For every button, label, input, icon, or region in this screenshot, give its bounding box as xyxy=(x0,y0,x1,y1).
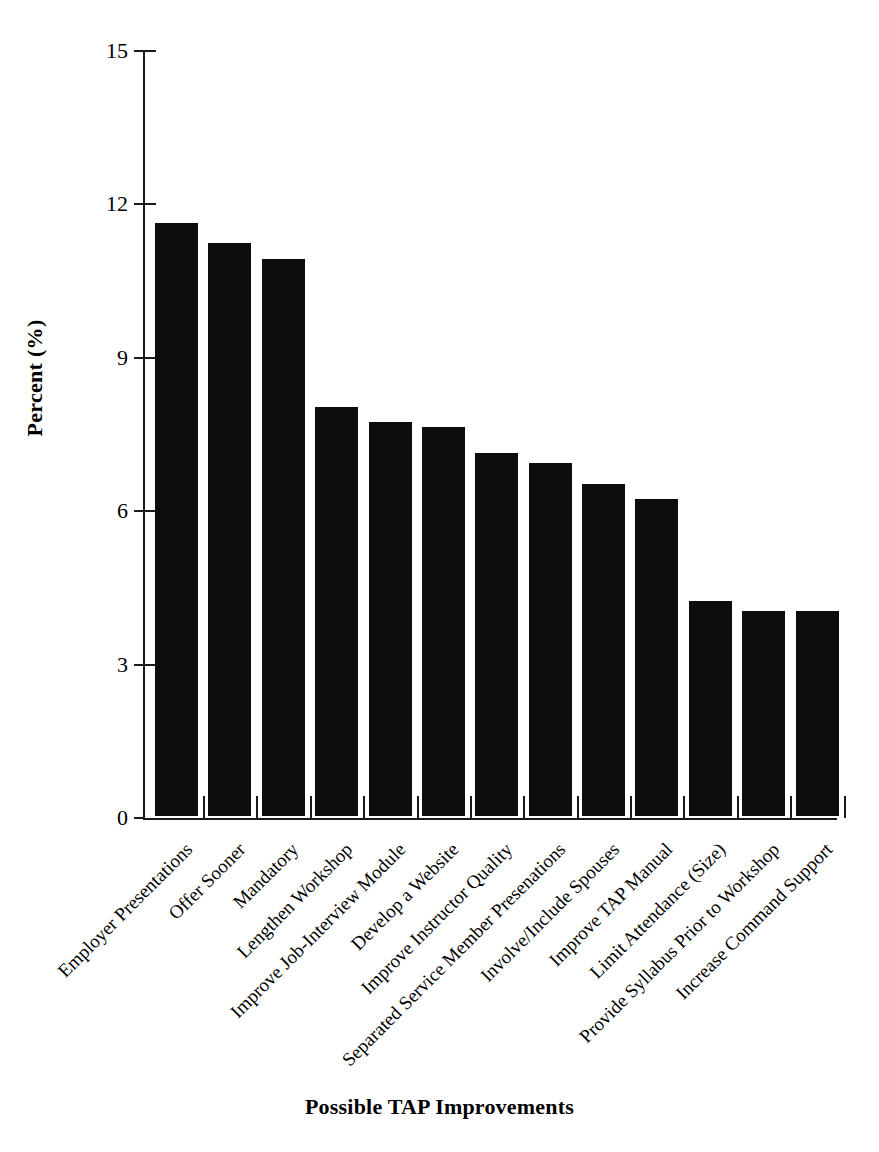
bar xyxy=(422,427,465,816)
x-category-label: Provide Syllabus Prior to Workshop xyxy=(576,839,783,1046)
x-tick-mark xyxy=(790,796,792,818)
y-tick-mark xyxy=(134,203,145,205)
x-tick-mark xyxy=(363,796,365,818)
y-tick-label: 0 xyxy=(117,807,128,829)
bar xyxy=(689,601,732,816)
bar xyxy=(155,223,198,816)
bar xyxy=(582,484,625,816)
x-tick-mark xyxy=(203,796,205,818)
y-tick-label: 12 xyxy=(106,193,128,215)
x-axis-line xyxy=(143,818,837,820)
y-tick-mark xyxy=(134,664,145,666)
bar xyxy=(315,407,358,816)
x-tick-mark xyxy=(417,796,419,818)
bar-chart-figure: Percent (%) 03691215 Employer Presentati… xyxy=(0,0,879,1152)
y-tick-label: 3 xyxy=(117,653,128,675)
bar xyxy=(796,611,839,816)
x-axis-title: Possible TAP Improvements xyxy=(0,1094,879,1120)
bar xyxy=(208,243,251,816)
bar xyxy=(635,499,678,816)
y-tick-label: 15 xyxy=(106,40,128,62)
plot-area: 03691215 xyxy=(143,51,837,818)
y-axis-title: Percent (%) xyxy=(22,288,48,468)
bar xyxy=(262,259,305,816)
y-tick-mark-inner xyxy=(145,203,156,205)
x-tick-mark xyxy=(310,796,312,818)
x-tick-mark xyxy=(630,796,632,818)
x-tick-mark xyxy=(256,796,258,818)
y-axis-line xyxy=(143,51,145,818)
y-tick-label: 9 xyxy=(117,346,128,368)
y-tick-label: 6 xyxy=(117,500,128,522)
x-tick-mark xyxy=(470,796,472,818)
x-tick-mark xyxy=(577,796,579,818)
bar xyxy=(742,611,785,816)
bar xyxy=(475,453,518,816)
x-tick-mark xyxy=(737,796,739,818)
bar xyxy=(529,463,572,816)
y-tick-mark-inner xyxy=(145,50,156,52)
x-tick-mark-origin xyxy=(143,796,145,818)
x-tick-mark xyxy=(844,796,846,818)
x-tick-mark xyxy=(683,796,685,818)
bar xyxy=(369,422,412,816)
y-tick-mark xyxy=(134,357,145,359)
y-tick-mark xyxy=(134,50,145,52)
x-tick-mark xyxy=(523,796,525,818)
y-tick-mark xyxy=(134,510,145,512)
